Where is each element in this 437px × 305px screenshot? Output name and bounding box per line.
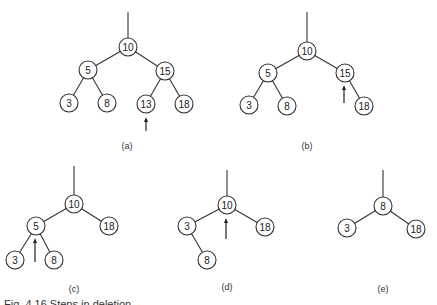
node-value: 3 [246,100,252,111]
tree-panel-e: 8318(e) [338,170,425,294]
tree-node: 18 [175,95,193,113]
node-value: 10 [221,200,233,211]
pointer-arrow-icon [144,117,148,131]
node-value: 18 [410,224,422,235]
node-value: 15 [159,66,171,77]
node-value: 3 [66,98,72,109]
tree-panel-d: 103188(d) [178,170,274,292]
tree-panel-b: 105153818(b) [240,12,373,151]
tree-node: 10 [298,42,316,60]
bst-deletion-diagram: 10515381318(a)105153818(b)1051838(c)1031… [0,0,437,305]
node-value: 18 [259,222,271,233]
node-value: 10 [68,199,80,210]
tree-node: 15 [336,64,354,82]
node-value: 5 [33,221,39,232]
node-value: 8 [104,98,110,109]
panel-label: (a) [122,141,133,151]
tree-node: 8 [98,94,116,112]
node-value: 10 [301,46,313,57]
tree-node: 8 [198,251,216,269]
tree-node: 3 [60,94,78,112]
node-value: 5 [265,68,271,79]
tree-node: 3 [240,96,258,114]
node-value: 5 [85,65,91,76]
tree-node: 15 [156,62,174,80]
tree-node: 3 [6,251,24,269]
node-value: 13 [140,99,152,110]
tree-node: 18 [100,217,118,235]
panel-label: (d) [222,282,233,292]
node-value: 18 [178,99,190,110]
pointer-arrow-icon [342,85,346,103]
node-value: 8 [284,101,290,112]
tree-node: 10 [65,195,83,213]
tree-node: 8 [278,97,296,115]
tree-node: 8 [45,251,63,269]
node-value: 15 [339,68,351,79]
node-value: 3 [344,223,350,234]
panel-label: (c) [69,284,80,294]
tree-node: 10 [218,196,236,214]
panel-label: (b) [302,141,313,151]
node-value: 10 [122,42,134,53]
tree-node: 18 [355,97,373,115]
diagram-panels: 10515381318(a)105153818(b)1051838(c)1031… [6,12,425,294]
tree-node: 13 [137,95,155,113]
tree-node: 8 [374,197,392,215]
tree-node: 10 [119,38,137,56]
tree-node: 18 [256,218,274,236]
panel-label: (e) [378,284,389,294]
node-value: 18 [103,221,115,232]
node-value: 3 [12,255,18,266]
node-value: 8 [51,255,57,266]
tree-node: 3 [178,217,196,235]
tree-panel-a: 10515381318(a) [60,12,193,151]
node-value: 8 [380,201,386,212]
node-value: 18 [358,101,370,112]
tree-node: 5 [27,217,45,235]
tree-node: 3 [338,219,356,237]
tree-node: 5 [259,64,277,82]
tree-node: 5 [79,61,97,79]
node-value: 3 [184,221,190,232]
node-value: 8 [204,255,210,266]
tree-node: 18 [407,220,425,238]
pointer-arrow-icon [33,238,37,262]
pointer-arrow-icon [224,218,228,239]
figure-caption: Fig. 4.16 Steps in deletion [4,297,131,305]
tree-panel-c: 1051838(c) [6,166,118,294]
